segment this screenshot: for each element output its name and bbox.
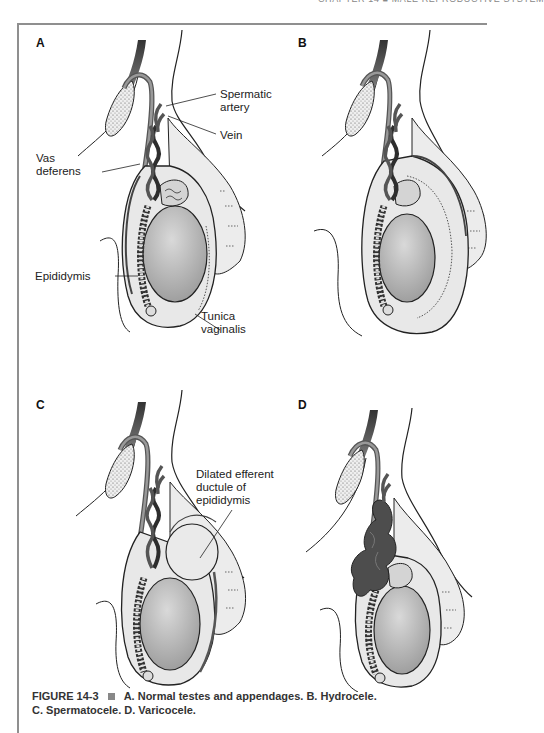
panel-c-spermatocele: C Dilated efferent ductule of epididymis [20,382,260,712]
label-tunica-vaginalis-2: vaginalis [201,323,246,336]
label-vas-deferens-2: deferens [36,165,81,178]
label-tunica-vaginalis-1: Tunica [201,310,235,323]
label-dilated-efferent-3: epididymis [196,494,250,507]
spermatocele-illustration [20,382,260,692]
varicocele-illustration [262,382,502,692]
panel-a-normal: A [20,26,260,356]
label-epididymis: Epididymis [35,270,91,283]
panel-b-hydrocele: B [262,26,502,356]
normal-testis-illustration [20,26,260,356]
label-vas-deferens-1: Vas [36,152,55,165]
figure-caption: FIGURE 14-3A. Normal testes and appendag… [32,689,492,717]
hydrocele-illustration [262,26,502,356]
caption-line-1: A. Normal testes and appendages. B. Hydr… [124,690,377,702]
bullet-square-icon [108,693,115,700]
figure-number: FIGURE 14-3 [32,690,99,702]
label-dilated-efferent-2: ductule of [196,481,246,494]
panel-d-varicocele: D [262,382,502,712]
caption-line-2: C. Spermatocele. D. Varicocele. [32,704,196,716]
running-head: CHAPTER 14 ■ MALE REPRODUCTIVE SYSTEM [318,0,544,4]
label-spermatic-artery-2: artery [220,101,249,114]
label-vein: Vein [220,129,242,142]
